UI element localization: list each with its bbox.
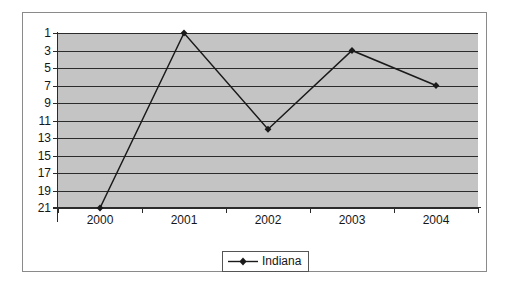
x-axis-tick-label: 2002: [233, 213, 303, 227]
series-indiana: [58, 33, 478, 208]
legend[interactable]: Indiana: [222, 251, 309, 272]
chart-frame: 13579111315171921 20002001200220032004 I…: [22, 12, 487, 272]
y-axis-tick-label: 5: [25, 62, 51, 74]
y-axis-tick-label: 13: [25, 132, 51, 144]
y-axis-tick-labels: 13579111315171921: [23, 13, 51, 271]
legend-marker-icon: [228, 256, 258, 267]
x-axis-tick-label: 2000: [65, 213, 135, 227]
x-axis-tick-label: 2003: [317, 213, 387, 227]
y-axis-tick-label: 19: [25, 185, 51, 197]
legend-label: Indiana: [262, 254, 301, 268]
x-axis-tick: [142, 208, 143, 213]
y-axis-tick-label: 7: [25, 80, 51, 92]
x-axis-tick: [310, 208, 311, 213]
x-axis-tick: [394, 208, 395, 213]
y-axis-tick-label: 17: [25, 167, 51, 179]
y-axis-tick-label: 3: [25, 45, 51, 57]
x-axis-tick-label: 2001: [149, 213, 219, 227]
series-line: [100, 33, 436, 208]
data-point-marker[interactable]: [433, 82, 440, 89]
y-axis-tick-label: 1: [25, 27, 51, 39]
x-axis-tick-label: 2004: [401, 213, 471, 227]
y-axis-tick-label: 15: [25, 150, 51, 162]
y-axis-tick-label: 9: [25, 97, 51, 109]
x-axis-tick: [226, 208, 227, 213]
gridline: [58, 208, 478, 209]
data-point-marker[interactable]: [97, 205, 104, 212]
x-axis-tick: [58, 208, 59, 213]
y-axis-tick-label: 11: [25, 115, 51, 127]
y-axis-tick-label: 21: [25, 202, 51, 214]
x-axis-tick: [478, 208, 479, 213]
